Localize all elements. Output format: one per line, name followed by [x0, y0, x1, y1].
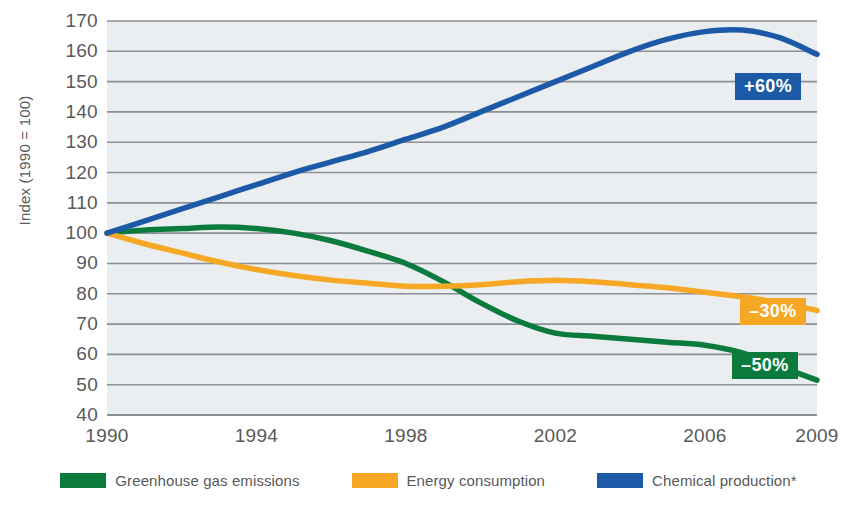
legend-label: Chemical production*: [652, 472, 797, 489]
legend-item[interactable]: Greenhouse gas emissions: [60, 472, 299, 489]
x-tick-label: 2009: [795, 425, 838, 447]
legend-swatch-icon: [352, 473, 398, 488]
x-tick-label: 1994: [235, 425, 278, 447]
legend-label: Greenhouse gas emissions: [115, 472, 299, 489]
x-tick-label: 1990: [85, 425, 128, 447]
value-badge: –30%: [740, 298, 806, 325]
plot-background: [107, 21, 817, 415]
legend-swatch-icon: [597, 473, 643, 488]
legend-item[interactable]: Chemical production*: [597, 472, 797, 489]
legend-swatch-icon: [60, 473, 106, 488]
x-tick-label: 2006: [683, 425, 726, 447]
x-tick-label: 1998: [384, 425, 427, 447]
value-badge: +60%: [735, 73, 801, 100]
x-tick-label: 2002: [534, 425, 577, 447]
legend-label: Energy consumption: [407, 472, 546, 489]
value-badge: –50%: [732, 352, 798, 379]
chart-container: Index (1990 = 100) 170160150140130120110…: [0, 0, 857, 513]
chart-legend: Greenhouse gas emissionsEnergy consumpti…: [0, 472, 857, 489]
legend-item[interactable]: Energy consumption: [352, 472, 546, 489]
